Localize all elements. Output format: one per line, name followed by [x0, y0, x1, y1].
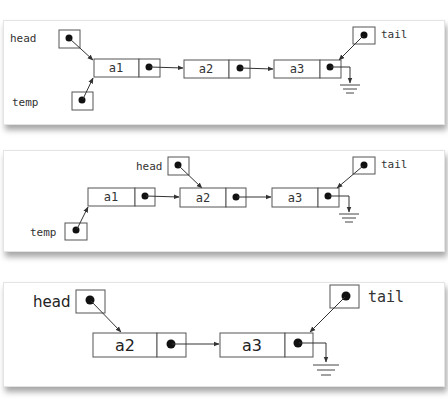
node-value: a3	[242, 336, 262, 355]
head-arrow-icon	[179, 166, 202, 188]
tail-arrow-icon	[337, 166, 363, 188]
panel-3: head a2 a3 tail	[33, 285, 404, 375]
tail-arrow-icon	[339, 36, 363, 60]
node-value: a2	[199, 62, 213, 76]
panel-1: head temp a1 a2 a3	[10, 27, 408, 110]
node-value: a2	[196, 191, 210, 205]
node-value: a2	[115, 336, 135, 355]
head-label: head	[136, 160, 163, 173]
pointer-dot-icon	[79, 97, 86, 104]
head-label: head	[10, 32, 37, 45]
head-arrow-icon	[91, 301, 121, 332]
node-value: a3	[290, 62, 304, 76]
temp-label: temp	[12, 96, 39, 109]
node-value: a3	[288, 191, 302, 205]
head-label: head	[33, 293, 70, 311]
ground-null-icon	[313, 365, 339, 375]
tail-label: tail	[368, 288, 404, 306]
node-value: a1	[109, 61, 123, 75]
ground-null-icon	[340, 85, 360, 93]
tail-label: tail	[381, 28, 408, 41]
tail-arrow-icon	[310, 297, 345, 332]
tail-label: tail	[381, 158, 408, 171]
head-arrow-icon	[70, 39, 93, 60]
panel-2: head temp a1 a2 a3	[30, 157, 408, 240]
linked-list-diagram: head temp a1 a2 a3	[0, 0, 448, 409]
ground-null-icon	[339, 214, 359, 222]
pointer-dot-icon	[73, 227, 80, 234]
node-value: a1	[104, 190, 118, 204]
temp-label: temp	[30, 226, 57, 239]
